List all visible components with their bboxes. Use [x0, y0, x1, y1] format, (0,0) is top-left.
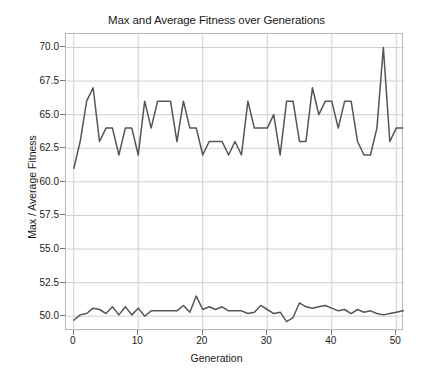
y-tick-mark	[60, 181, 65, 182]
grid-lines	[66, 34, 404, 331]
y-tick-mark	[60, 315, 65, 316]
x-tick-mark	[137, 330, 138, 335]
y-axis-label: Max / Average Fitness	[26, 87, 38, 287]
x-tick-mark	[202, 330, 203, 335]
y-tick-label: 70.0	[0, 41, 59, 52]
y-tick-mark	[60, 114, 65, 115]
chart-title: Max and Average Fitness over Generations	[0, 14, 433, 26]
y-tick-label: 67.5	[0, 75, 59, 86]
y-tick-mark	[60, 282, 65, 283]
x-tick-label: 40	[311, 335, 351, 346]
x-tick-mark	[395, 330, 396, 335]
data-lines	[74, 47, 404, 321]
x-tick-mark	[331, 330, 332, 335]
x-tick-label: 20	[182, 335, 222, 346]
y-tick-mark	[60, 80, 65, 81]
x-tick-label: 50	[375, 335, 415, 346]
x-tick-mark	[73, 330, 74, 335]
y-tick-label: 50.0	[0, 310, 59, 321]
y-tick-mark	[60, 46, 65, 47]
y-tick-mark	[60, 214, 65, 215]
x-tick-label: 10	[117, 335, 157, 346]
x-axis-label: Generation	[0, 352, 433, 364]
plot-svg	[66, 34, 404, 331]
x-tick-label: 30	[246, 335, 286, 346]
series-line-max-fitness	[74, 47, 403, 168]
x-tick-label: 0	[53, 335, 93, 346]
series-line-average-fitness	[74, 296, 404, 322]
y-tick-mark	[60, 248, 65, 249]
chart-figure: Max and Average Fitness over Generations…	[0, 0, 433, 381]
plot-area	[65, 33, 403, 330]
x-tick-mark	[266, 330, 267, 335]
y-tick-mark	[60, 147, 65, 148]
